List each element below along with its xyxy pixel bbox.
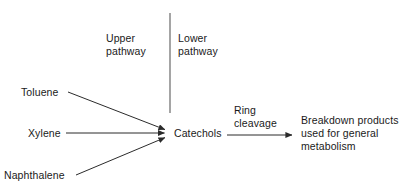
arrow-naphthalene-to-catechols [76,138,165,175]
pathway-diagram: Upper pathway Lower pathway Toluene Xyle… [0,0,412,192]
arrow-toluene-to-catechols [68,92,165,130]
diagram-canvas [0,0,412,192]
label-lower-pathway: Lower pathway [178,32,218,58]
label-upper-pathway: Upper pathway [106,32,146,58]
label-product-breakdown: Breakdown products used for general meta… [301,114,399,153]
label-substrate-xylene: Xylene [28,127,61,140]
label-substrate-naphthalene: Naphthalene [4,169,65,182]
label-substrate-toluene: Toluene [21,86,58,99]
label-process-ring-cleavage: Ring cleavage [234,104,277,130]
label-intermediate-catechols: Catechols [174,127,222,140]
